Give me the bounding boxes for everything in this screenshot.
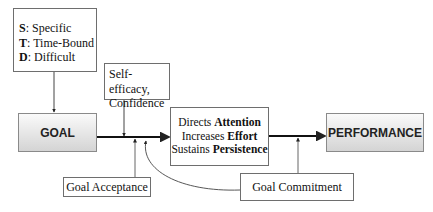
goal-acceptance-box: Goal Acceptance xyxy=(63,177,151,197)
performance-label: PERFORMANCE xyxy=(328,126,422,140)
mechanism-object: Persistence xyxy=(213,143,268,155)
goal-acceptance-label: Goal Acceptance xyxy=(66,180,148,195)
self-efficacy-box: Self-efficacy, Confidence xyxy=(104,63,170,100)
self-efficacy-label: Self-efficacy, xyxy=(109,67,169,96)
attribute-difficult: D: Difficult xyxy=(19,50,96,65)
attribute-letter: S xyxy=(19,21,26,35)
mechanism-verb: Increases xyxy=(182,130,228,142)
mechanism-effort: Increases Effort xyxy=(182,130,258,144)
goal-box: GOAL xyxy=(18,113,97,152)
goal-label: GOAL xyxy=(40,126,75,140)
mechanism-verb: Directs xyxy=(178,116,214,128)
mechanism-attention: Directs Attention xyxy=(178,116,261,130)
attribute-specific: S: Specific xyxy=(19,21,96,36)
attribute-text: : Specific xyxy=(26,21,72,35)
confidence-label: Confidence xyxy=(109,96,169,111)
performance-box: PERFORMANCE xyxy=(326,113,424,152)
goal-commitment-label: Goal Commitment xyxy=(252,180,342,195)
attribute-time-bound: T: Time-Bound xyxy=(19,36,96,51)
attribute-letter: T xyxy=(19,36,27,50)
mechanism-persistence: Sustains Persistence xyxy=(171,143,267,157)
attribute-text: : Time-Bound xyxy=(27,36,94,50)
mechanism-object: Attention xyxy=(214,116,261,128)
mechanism-verb: Sustains xyxy=(171,143,212,155)
mechanisms-box: Directs Attention Increases Effort Susta… xyxy=(170,107,269,166)
mechanism-object: Effort xyxy=(227,130,257,142)
goal-attributes-box: S: Specific T: Time-Bound D: Difficult xyxy=(13,8,97,72)
attribute-text: : Difficult xyxy=(28,50,75,64)
attribute-letter: D xyxy=(19,50,28,64)
goal-commitment-box: Goal Commitment xyxy=(240,173,354,201)
